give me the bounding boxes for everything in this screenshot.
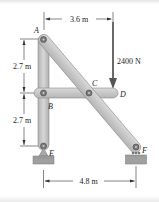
label-d: D (119, 90, 126, 99)
dimension-bottom: 4.8 m (44, 166, 137, 188)
label-a: A (33, 26, 39, 35)
label-c: C (92, 79, 98, 88)
truss-diagram: 3.6 m 2.7 m 2.7 m 2400 N (0, 0, 159, 202)
dim-left-lower-label: 2.7 m (13, 116, 32, 125)
dimension-top: 3.6 m (44, 12, 113, 30)
load-arrow: 2400 N (109, 22, 141, 89)
load-label: 2400 N (117, 57, 141, 66)
label-b: B (48, 102, 53, 111)
dim-left-upper-label: 2.7 m (13, 62, 32, 71)
label-f: F (141, 146, 147, 155)
label-e: E (48, 149, 54, 158)
bottom-shade (0, 196, 159, 202)
frame-figure: 3.6 m 2.7 m 2.7 m 2400 N (0, 0, 159, 202)
dim-bottom-label: 4.8 m (79, 177, 98, 186)
dim-top-label: 3.6 m (70, 15, 89, 24)
